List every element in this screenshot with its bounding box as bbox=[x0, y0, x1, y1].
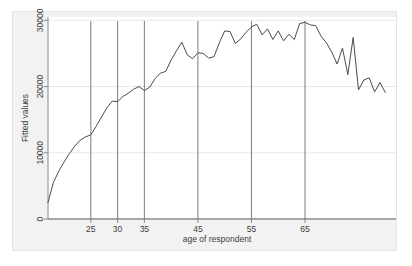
x-tick-label: 55 bbox=[247, 224, 257, 234]
y-tick-label: 20000 bbox=[35, 74, 45, 98]
line-chart: 0100002000030000253035455565 age of resp… bbox=[0, 0, 412, 266]
y-axis-title: Fitted values bbox=[20, 94, 30, 142]
data-series bbox=[48, 22, 385, 202]
y-tick-label: 10000 bbox=[35, 141, 45, 165]
axis-lines bbox=[48, 17, 396, 219]
y-tick-label: 30000 bbox=[35, 8, 45, 32]
reference-lines bbox=[91, 21, 305, 219]
x-tick-label: 25 bbox=[86, 224, 96, 234]
axis-tick-labels: 0100002000030000253035455565 bbox=[35, 8, 310, 234]
x-tick-label: 45 bbox=[193, 224, 203, 234]
x-tick-label: 30 bbox=[113, 224, 123, 234]
axis-ticks bbox=[44, 20, 305, 223]
x-tick-label: 65 bbox=[300, 224, 310, 234]
chart-figure: 0100002000030000253035455565 age of resp… bbox=[0, 0, 412, 266]
x-tick-label: 35 bbox=[140, 224, 150, 234]
series-line bbox=[48, 22, 385, 202]
y-tick-label: 0 bbox=[35, 216, 45, 221]
x-axis-title: age of respondent bbox=[183, 234, 252, 244]
gridlines bbox=[48, 20, 396, 152]
